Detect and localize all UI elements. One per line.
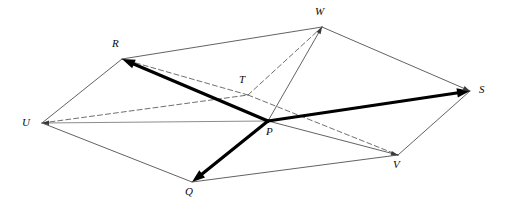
vertex-label-R: R	[112, 38, 119, 49]
edge-Q-U	[42, 123, 192, 182]
arrow-tip-V	[391, 151, 398, 156]
edge-P-V	[268, 121, 398, 155]
vectors-layer	[122, 59, 470, 182]
vertex-label-W: W	[315, 6, 324, 17]
edges-layer	[42, 27, 470, 182]
edge-U-P	[42, 121, 268, 123]
vertex-label-S: S	[479, 84, 485, 95]
vector-P-R-shaft	[131, 63, 268, 121]
edge-T-R	[122, 59, 248, 95]
vertex-label-U: U	[22, 117, 30, 128]
vertex-label-V: V	[393, 159, 400, 170]
vertex-label-T: T	[239, 74, 245, 85]
arrow-tip-S-thin	[463, 86, 470, 91]
vertex-label-P: P	[266, 126, 273, 137]
vector-P-Q-shaft	[200, 121, 268, 176]
edge-P-W	[268, 27, 322, 121]
geometry-figure: PQRSTUVW	[0, 0, 507, 214]
vector-P-R-head	[122, 59, 136, 68]
vertex-label-Q: Q	[185, 186, 193, 197]
geometry-canvas	[0, 0, 507, 214]
vector-P-S-shaft	[268, 92, 460, 121]
edge-W-S	[322, 27, 470, 91]
arrow-tips-layer	[42, 27, 470, 156]
